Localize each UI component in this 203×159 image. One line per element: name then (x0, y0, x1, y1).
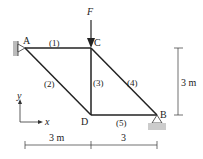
node-b-label: B (160, 109, 167, 120)
load-label: F (86, 6, 94, 17)
left-span-label: 3 m (49, 132, 65, 143)
node-c-label: C (94, 37, 101, 48)
member-4-label: (4) (127, 78, 138, 88)
y-axis-label: y (16, 90, 22, 101)
member-2-label: (2) (44, 79, 55, 89)
truss-diagram: F A C D B (1) (2) (3) (4) (5) 3 m 3 m 3 … (0, 0, 203, 159)
member-5-label: (5) (116, 118, 127, 128)
member-3-label: (3) (93, 78, 104, 88)
right-span-label: 3 (121, 132, 126, 143)
node-d-label: D (81, 116, 88, 127)
wall-support (13, 41, 18, 56)
x-axis-label: x (44, 116, 50, 127)
node-a-label: A (23, 35, 31, 46)
height-dimension-label: 3 m (181, 77, 197, 88)
member-1-label: (1) (49, 38, 60, 48)
member-2 (25, 48, 91, 115)
ground-support (148, 123, 166, 130)
